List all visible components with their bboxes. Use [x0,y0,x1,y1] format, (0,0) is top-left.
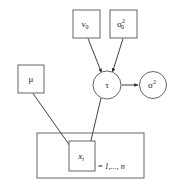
node-tau-label: τ [105,80,109,90]
edge-group [33,39,138,154]
node-x-i[interactable]: xi [69,141,95,171]
node-nu0[interactable]: ν0 [73,10,100,38]
plate-index-label: i = 1,..., n [93,162,125,171]
node-sigma0-squared[interactable]: σ20 [110,10,137,38]
node-sigma0-squared-label: σ20 [117,18,125,30]
edge-sigma0sq-to-tau [113,39,124,73]
node-tau[interactable]: τ [93,71,121,99]
node-sigma-squared-circle[interactable] [140,72,167,99]
node-mu-label: μ [29,74,34,84]
edge-nu0-to-tau [88,39,102,73]
diagram-canvas: i = 1,..., n ν0 σ20 μ [0,0,174,189]
graphical-model-diagram: i = 1,..., n ν0 σ20 μ [0,0,174,189]
node-sigma-squared[interactable]: σ2 [140,72,167,99]
node-mu[interactable]: μ [18,65,44,93]
